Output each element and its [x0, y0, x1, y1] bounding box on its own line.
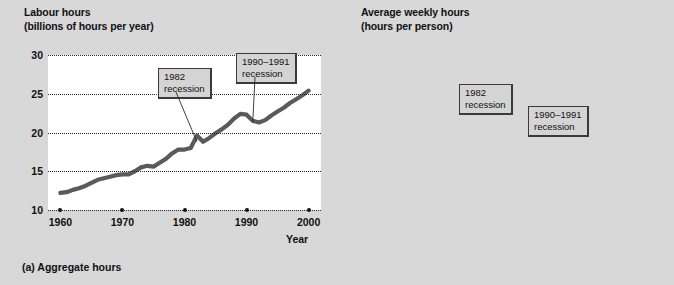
panel-b-annotation-1990-line2: recession — [534, 121, 582, 133]
panel-b-annotation-1990-line1: 1990–1991 — [534, 109, 582, 121]
panel-b-annotation-1982-line2: recession — [465, 99, 506, 111]
panel-a-title-line2: (billions of hours per year) — [24, 20, 154, 34]
y-axis-tick-30: 30 — [31, 49, 43, 61]
y-axis-tick-10: 10 — [31, 204, 43, 216]
x-axis-tick-1990: 1990 — [235, 216, 258, 228]
y-axis-tick-20: 20 — [31, 127, 43, 139]
panel-a-plot-area: 101520253019601970198019902000 — [48, 55, 321, 210]
x-axis-tick-1980: 1980 — [173, 216, 196, 228]
panel-b-annotation-1990: 1990–1991 recession — [528, 106, 589, 137]
panel-b-title-line1: Average weekly hours — [361, 6, 470, 20]
panel-b-title-line2: (hours per person) — [361, 20, 470, 34]
figure-container: Labour hours (billions of hours per year… — [0, 0, 674, 285]
panel-a-title-line1: Labour hours — [24, 6, 154, 20]
panel-a-leader-lines — [48, 55, 321, 210]
y-axis-tick-15: 15 — [31, 165, 43, 177]
panel-a-axis-title: Labour hours (billions of hours per year… — [24, 6, 154, 33]
x-axis-tick-1960: 1960 — [49, 216, 72, 228]
x-axis-tick-1970: 1970 — [111, 216, 134, 228]
panel-b-annotation-1982: 1982 recession — [459, 84, 513, 115]
panel-a-caption: (a) Aggregate hours — [22, 261, 121, 273]
y-axis-tick-25: 25 — [31, 88, 43, 100]
panel-b-annotation-1982-line1: 1982 — [465, 87, 506, 99]
panel-average-weekly-hours: Average weekly hours (hours per person) … — [337, 0, 674, 285]
x-axis-tick-2000: 2000 — [297, 216, 320, 228]
panel-b-axis-title: Average weekly hours (hours per person) — [361, 6, 470, 33]
panel-aggregate-hours: Labour hours (billions of hours per year… — [0, 0, 337, 285]
panel-a-xaxis-label: Year — [286, 233, 308, 245]
